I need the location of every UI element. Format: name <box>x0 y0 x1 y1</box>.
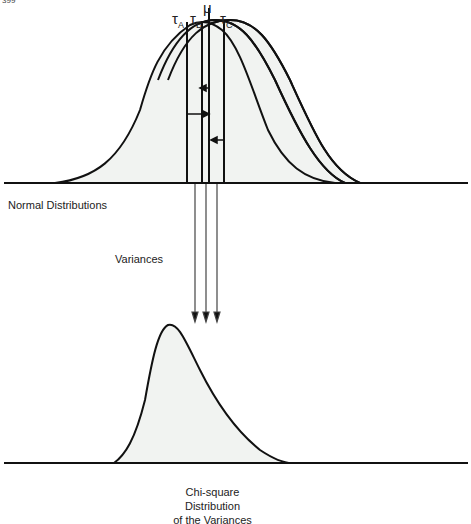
chi-square-curve <box>114 325 292 463</box>
tau-a-label: τA <box>172 10 184 30</box>
arrow-down-icon <box>214 312 220 322</box>
chi-square-label: Chi-square Distribution of the Variances <box>150 485 275 524</box>
mu-label: μ <box>203 0 212 16</box>
normal-distributions-label: Normal Distributions <box>8 199 107 211</box>
tau-c-label: τC <box>220 10 232 30</box>
arrow-down-icon <box>203 312 209 322</box>
variances-label: Variances <box>115 253 163 265</box>
arrow-down-icon <box>192 312 198 322</box>
normal-curves <box>55 20 360 183</box>
diagram-canvas <box>0 0 471 524</box>
tau-b-label: τB <box>190 10 202 30</box>
variance-arrows <box>192 184 220 322</box>
